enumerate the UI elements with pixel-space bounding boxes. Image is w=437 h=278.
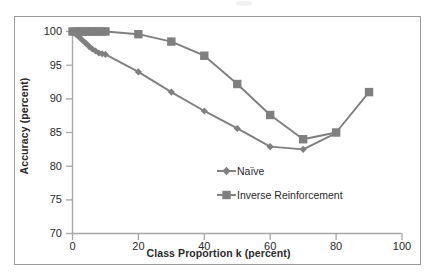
data-point-marker (167, 37, 175, 45)
data-point-marker (234, 125, 241, 132)
y-axis-title: Accuracy (percent) (18, 26, 30, 226)
data-point-marker (300, 146, 307, 153)
data-point-marker (299, 135, 307, 143)
y-tick-label-75: 75 (30, 193, 62, 205)
data-point-marker (101, 27, 109, 35)
data-point-marker (266, 111, 274, 119)
legend-markers (217, 167, 236, 199)
data-point-marker (233, 80, 241, 88)
y-tick-label-80: 80 (30, 160, 62, 172)
plot-area (0, 0, 437, 278)
x-axis-title: Class Proportion k (percent) (0, 247, 437, 259)
y-axis-ticks (66, 32, 73, 234)
data-point-marker (267, 143, 274, 150)
data-point-marker (332, 128, 340, 136)
data-point-marker (134, 30, 142, 38)
legend-marker-square-icon (222, 191, 230, 199)
y-tick-label-100: 100 (30, 25, 62, 37)
chart-container: 100 95 90 85 80 75 70 0 20 40 60 80 100 … (0, 0, 437, 278)
legend-label-naive: Naïve (237, 165, 264, 177)
y-tick-label-95: 95 (30, 59, 62, 71)
axis-lines (73, 31, 403, 234)
data-point-marker (200, 52, 208, 60)
series-line-1 (73, 32, 370, 140)
y-tick-label-90: 90 (30, 92, 62, 104)
legend-marker-diamond-icon (222, 167, 230, 175)
y-tick-label-85: 85 (30, 126, 62, 138)
y-tick-label-70: 70 (30, 227, 62, 239)
legend-label-inverse-reinforcement: Inverse Reinforcement (237, 189, 343, 201)
data-point-marker (365, 88, 373, 96)
data-series-group (68, 27, 373, 153)
series-line-0 (73, 32, 337, 150)
